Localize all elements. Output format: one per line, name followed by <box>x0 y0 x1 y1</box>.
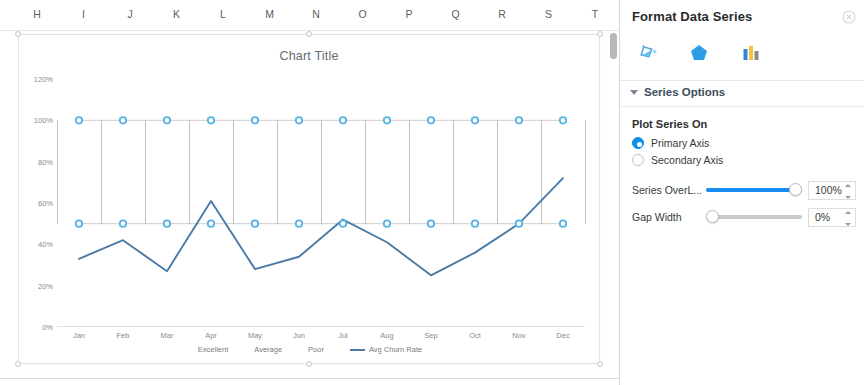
series-overlap-fill <box>706 188 796 192</box>
spinner-up-icon[interactable] <box>845 211 851 214</box>
series-selection-marker <box>560 220 566 226</box>
gap-width-knob[interactable] <box>706 210 719 223</box>
series-selection-marker <box>208 117 214 123</box>
legend-item[interactable]: Avg Churn Rate <box>350 345 422 354</box>
series-overlap-spinner[interactable] <box>843 184 852 199</box>
chart-handle-bottom-center[interactable] <box>306 361 312 367</box>
column-header-l[interactable]: L <box>200 8 246 20</box>
spinner-down-icon[interactable] <box>845 196 851 199</box>
series-selection-marker <box>428 220 434 226</box>
legend-line-swatch <box>350 349 365 351</box>
column-header-i[interactable]: I <box>61 8 107 20</box>
sheet-scrollbar-thumb[interactable] <box>610 33 617 59</box>
column-header-s[interactable]: S <box>526 8 572 20</box>
x-axis-tick: Nov <box>497 331 541 340</box>
legend-label: Poor <box>308 345 324 354</box>
chart-title[interactable]: Chart Title <box>19 49 599 63</box>
series-selection-marker <box>516 220 522 226</box>
x-axis-tick: Jun <box>277 331 321 340</box>
column-header-o[interactable]: O <box>340 8 386 20</box>
series-selection-marker <box>340 220 346 226</box>
column-header-h[interactable]: H <box>14 8 60 20</box>
gap-width-row: Gap Width 0% <box>632 206 858 228</box>
legend-item[interactable]: Poor <box>308 345 324 354</box>
column-header-m[interactable]: M <box>247 8 293 20</box>
series-selection-marker <box>428 117 434 123</box>
panel-divider <box>620 80 864 81</box>
legend-label: Average <box>254 345 282 354</box>
radio-secondary-axis[interactable]: Secondary Axis <box>632 154 723 166</box>
sheet-vertical-scrollbar[interactable] <box>610 32 617 362</box>
column-header-p[interactable]: P <box>386 8 432 20</box>
panel-divider-2 <box>620 106 864 107</box>
column-header-j[interactable]: J <box>107 8 153 20</box>
y-axis-tick: 100% <box>21 116 53 125</box>
legend-item[interactable]: Excellent <box>198 345 228 354</box>
series-options-icon[interactable] <box>738 40 764 66</box>
fill-and-line-icon[interactable] <box>634 40 660 66</box>
format-data-series-panel: Format Data Series <box>620 0 864 385</box>
series-overlap-spinbox[interactable]: 100% <box>808 181 856 200</box>
column-header-t[interactable]: T <box>572 8 618 20</box>
series-selection-marker <box>384 220 390 226</box>
radio-primary-axis[interactable]: Primary Axis <box>632 137 709 149</box>
chart-legend[interactable]: ExcellentAveragePoorAvg Churn Rate <box>19 345 601 354</box>
series-overlap-slider[interactable] <box>706 183 802 197</box>
x-axis-tick: Feb <box>101 331 145 340</box>
y-axis-tick: 80% <box>21 157 53 166</box>
chart-handle-top-center[interactable] <box>306 31 312 37</box>
x-axis-tick: May <box>233 331 277 340</box>
gap-width-spinbox[interactable]: 0% <box>808 208 856 227</box>
column-header-n[interactable]: N <box>293 8 339 20</box>
column-header-row: HIJKLMNOPQRST <box>0 8 620 30</box>
series-selection-marker <box>76 220 82 226</box>
column-header-k[interactable]: K <box>154 8 200 20</box>
gap-width-slider[interactable] <box>706 210 802 224</box>
chart-handle-top-right[interactable] <box>597 31 603 37</box>
series-options-section-label: Series Options <box>644 86 725 98</box>
series-overlap-knob[interactable] <box>789 183 802 196</box>
radio-secondary-axis-indicator[interactable] <box>632 154 644 166</box>
plot-series-on-label: Plot Series On <box>632 118 707 130</box>
close-icon[interactable] <box>842 10 856 24</box>
x-axis-tick: Apr <box>189 331 233 340</box>
excel-window: HIJKLMNOPQRST Chart Title 0%20%40%60%80%… <box>0 0 864 385</box>
chart-handle-bottom-right[interactable] <box>597 361 603 367</box>
legend-item[interactable]: Average <box>254 345 282 354</box>
chart-handle-top-left[interactable] <box>15 31 21 37</box>
chart-series-layer <box>57 79 585 327</box>
panel-icon-tabs <box>634 40 764 66</box>
series-selection-marker <box>120 220 126 226</box>
gap-width-spinner[interactable] <box>843 211 852 226</box>
legend-label: Excellent <box>198 345 228 354</box>
spinner-up-icon[interactable] <box>845 184 851 187</box>
series-selection-marker <box>472 117 478 123</box>
chart-plot-area[interactable]: 0%20%40%60%80%100%120%JanFebMarAprMayJun… <box>57 79 585 327</box>
chart-handle-bottom-left[interactable] <box>15 361 21 367</box>
x-axis-tick: Mar <box>145 331 189 340</box>
series-overlap-value: 100% <box>815 184 842 196</box>
x-axis-tick: Aug <box>365 331 409 340</box>
series-selection-marker <box>296 117 302 123</box>
y-axis-tick: 0% <box>21 323 53 332</box>
series-selection-marker <box>516 117 522 123</box>
column-header-q[interactable]: Q <box>433 8 479 20</box>
column-header-r[interactable]: R <box>479 8 525 20</box>
spinner-down-icon[interactable] <box>845 223 851 226</box>
panel-title: Format Data Series <box>632 9 752 24</box>
y-axis-tick: 120% <box>21 75 53 84</box>
y-axis-tick: 20% <box>21 281 53 290</box>
gap-width-label: Gap Width <box>632 211 706 223</box>
avg-churn-rate-line <box>79 178 563 275</box>
chart-object[interactable]: Chart Title 0%20%40%60%80%100%120%JanFeb… <box>18 34 600 364</box>
radio-primary-axis-indicator[interactable] <box>632 137 644 149</box>
series-selection-marker <box>208 220 214 226</box>
x-axis-tick: Sep <box>409 331 453 340</box>
series-selection-marker <box>252 117 258 123</box>
y-axis-tick: 40% <box>21 240 53 249</box>
effects-icon[interactable] <box>686 40 712 66</box>
series-overlap-row: Series OverL... 100% <box>632 179 858 201</box>
gap-width-value: 0% <box>815 211 830 223</box>
series-options-section-header[interactable]: Series Options <box>630 86 725 98</box>
series-selection-marker <box>164 117 170 123</box>
